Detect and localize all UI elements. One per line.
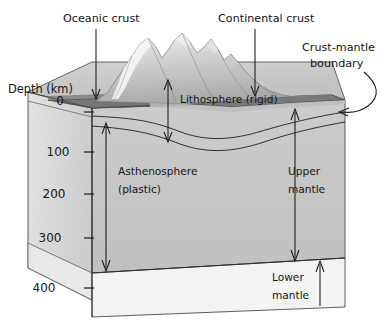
asthenosphere-label-line2: (plastic) bbox=[118, 183, 161, 195]
depth-tick-label-200: 200 bbox=[43, 187, 66, 201]
earth-layers-figure: Depth (km) 0 100 200 300 400 Oceanic cru… bbox=[0, 0, 391, 336]
depth-tick-label-400: 400 bbox=[33, 281, 56, 295]
lithosphere-label: Lithosphere (rigid) bbox=[180, 93, 278, 105]
upper-mantle-label-line1: Upper bbox=[288, 165, 321, 177]
lower-mantle-label-line1: Lower bbox=[272, 271, 304, 283]
depth-tick-label-0: 0 bbox=[56, 94, 64, 108]
crust-mantle-boundary-label-line2: boundary bbox=[310, 57, 364, 70]
depth-tick-label-300: 300 bbox=[39, 231, 62, 245]
lower-mantle-label-line2: mantle bbox=[272, 289, 309, 301]
asthenosphere-label-line1: Asthenosphere bbox=[118, 165, 197, 177]
crust-mantle-boundary-label-line1: Crust-mantle bbox=[302, 41, 375, 54]
depth-tick-label-100: 100 bbox=[47, 145, 70, 159]
oceanic-crust-label: Oceanic crust bbox=[63, 12, 140, 25]
continental-crust-label: Continental crust bbox=[218, 12, 315, 25]
upper-mantle-label-line2: mantle bbox=[288, 183, 325, 195]
block-diagram-canvas: Depth (km) 0 100 200 300 400 Oceanic cru… bbox=[0, 0, 391, 336]
